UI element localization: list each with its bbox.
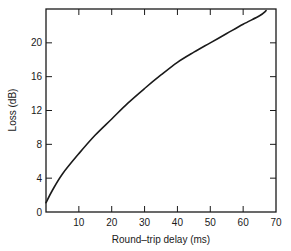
chart: 10203040506070 048121620 Round–trip dela…	[0, 0, 291, 251]
y-axis-title: Loss (dB)	[7, 89, 18, 132]
x-tick-label: 10	[73, 217, 85, 228]
x-axis-ticks: 10203040506070	[73, 9, 282, 228]
y-tick-label: 0	[36, 207, 42, 218]
x-tick-label: 20	[106, 217, 118, 228]
y-axis-ticks: 048121620	[31, 37, 276, 217]
x-tick-label: 40	[172, 217, 184, 228]
x-tick-label: 60	[238, 217, 250, 228]
plot-frame	[46, 9, 276, 212]
x-tick-label: 50	[205, 217, 217, 228]
loss-curve	[46, 11, 266, 203]
y-tick-label: 20	[31, 37, 43, 48]
y-tick-label: 12	[31, 105, 43, 116]
x-axis-title: Round–trip delay (ms)	[112, 234, 210, 245]
y-tick-label: 16	[31, 71, 43, 82]
y-tick-label: 8	[36, 139, 42, 150]
x-tick-label: 70	[270, 217, 282, 228]
y-tick-label: 4	[36, 173, 42, 184]
x-tick-label: 30	[139, 217, 151, 228]
